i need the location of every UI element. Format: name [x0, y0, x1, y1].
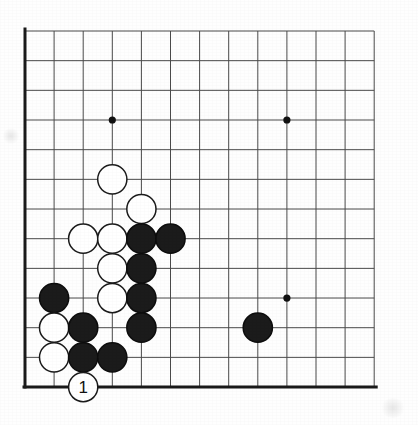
black-stone[interactable] [40, 283, 69, 312]
white-stone[interactable] [98, 283, 127, 312]
black-stone[interactable] [127, 224, 156, 253]
goban-canvas[interactable]: 1 [0, 0, 418, 425]
black-stone[interactable] [69, 343, 98, 372]
stone-group[interactable] [40, 165, 273, 402]
white-stone[interactable] [69, 224, 98, 253]
black-stone[interactable] [98, 343, 127, 372]
black-stone[interactable] [69, 313, 98, 342]
white-stone[interactable] [40, 343, 69, 372]
black-stone[interactable] [127, 283, 156, 312]
black-stone[interactable] [243, 313, 272, 342]
star-point-icon [109, 116, 116, 123]
white-stone[interactable] [127, 194, 156, 223]
white-stone[interactable] [98, 254, 127, 283]
star-point-icon [283, 116, 290, 123]
white-stone[interactable] [40, 313, 69, 342]
go-board-diagram: 1 Go board corner diagram with move 1 [0, 0, 418, 425]
white-stone[interactable] [98, 165, 127, 194]
black-stone[interactable] [127, 254, 156, 283]
black-stone[interactable] [127, 313, 156, 342]
move-number-label: 1 [78, 378, 87, 397]
move-label-group: 1 [78, 378, 87, 397]
white-stone[interactable] [98, 224, 127, 253]
black-stone[interactable] [156, 224, 185, 253]
star-point-icon [283, 294, 290, 301]
